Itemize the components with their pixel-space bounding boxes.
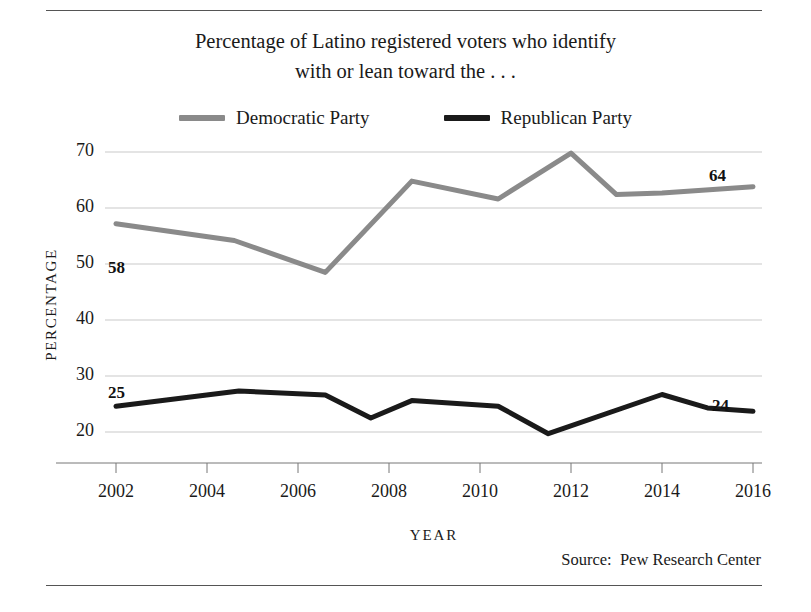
x-tick-label: 2014	[622, 481, 702, 502]
bottom-divider-rule	[46, 585, 762, 586]
x-tick-label: 2006	[258, 481, 338, 502]
x-tick-label: 2010	[440, 481, 520, 502]
x-axis-ticks	[116, 463, 753, 473]
y-axis-title: PERCENTAGE	[43, 210, 60, 400]
series-line-democratic-party	[116, 153, 753, 272]
x-tick-label: 2008	[349, 481, 429, 502]
series-lines	[116, 153, 753, 434]
plot-svg	[0, 0, 811, 612]
x-tick-label: 2016	[713, 481, 793, 502]
chart-page: Percentage of Latino registered voters w…	[0, 0, 811, 612]
series-line-republican-party	[116, 391, 753, 434]
dem-start-value-label: 58	[108, 258, 125, 278]
y-tick-label: 70	[48, 140, 94, 161]
x-axis-title: YEAR	[116, 527, 752, 544]
rep-start-value-label: 25	[108, 383, 125, 403]
plot-area: 203040506070 200220042006200820102012201…	[0, 0, 811, 612]
y-tick-label: 20	[48, 420, 94, 441]
dem-end-value-label: 64	[709, 166, 726, 186]
x-tick-label: 2012	[531, 481, 611, 502]
rep-end-value-label: 24	[712, 396, 729, 416]
x-tick-label: 2002	[76, 481, 156, 502]
x-tick-label: 2004	[167, 481, 247, 502]
source-attribution: Source: Pew Research Center	[561, 550, 761, 570]
